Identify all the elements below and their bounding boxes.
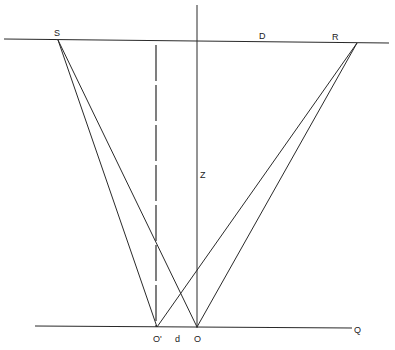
ray-s-to-o-prime	[58, 40, 157, 327]
label-q: Q	[354, 325, 361, 335]
label-z: Z	[200, 170, 206, 180]
ray-r-to-o	[197, 43, 357, 327]
ray-r-to-o-prime	[157, 43, 357, 327]
label-r: R	[332, 32, 339, 42]
label-d-distance: d	[175, 334, 180, 344]
ray-s-to-o	[58, 40, 197, 327]
label-o: O	[194, 334, 201, 344]
bottom-line-q	[35, 326, 352, 328]
label-d: D	[259, 31, 266, 41]
geometry-diagram: S D R Z O' d O Q	[0, 0, 395, 350]
label-s: S	[54, 28, 60, 38]
label-o-prime: O'	[153, 334, 162, 344]
